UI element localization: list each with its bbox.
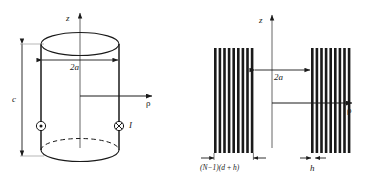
winding-stack-right: [311, 48, 350, 153]
right-panel-cross-section: [201, 15, 352, 160]
winding-width-label: (N−1)(d + h): [200, 164, 239, 172]
left-diameter-label-2a: 2a: [70, 63, 79, 72]
current-into-page-icon: [114, 121, 123, 130]
current-label-I: I: [129, 121, 132, 130]
winding-width-arrow: [201, 153, 266, 160]
right-diameter-label-2a: 2a: [274, 73, 283, 82]
left-z-axis-label: z: [66, 14, 70, 23]
winding-stack-left: [214, 48, 253, 153]
left-height-label-c: c: [12, 95, 16, 104]
left-rho-axis-label: ρ: [146, 99, 151, 108]
current-out-of-page-icon: [36, 121, 45, 130]
right-z-axis-label: z: [259, 16, 263, 25]
right-rho-axis-label: ρ: [347, 106, 352, 115]
figure-canvas: [0, 0, 378, 185]
cylinder-bottom-rim-front: [41, 150, 119, 162]
turn-thickness-label-h: h: [310, 164, 315, 173]
left-panel-cylindrical-model: [20, 13, 152, 162]
